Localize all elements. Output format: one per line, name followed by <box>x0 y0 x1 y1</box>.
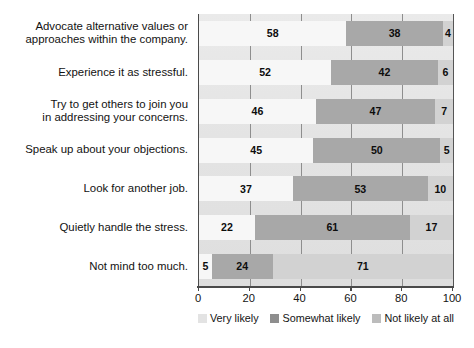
bar-segment: 42 <box>331 60 438 85</box>
bar-value-label: 4 <box>445 28 451 39</box>
bar-value-label: 38 <box>389 28 401 39</box>
bar-value-label: 46 <box>252 106 264 117</box>
bar-segment: 71 <box>273 254 453 279</box>
bar-value-label: 50 <box>371 145 383 156</box>
bar-segment: 58 <box>199 21 346 46</box>
stacked-bar-chart: Advocate alternative values orapproaches… <box>0 0 474 348</box>
bar-segment: 50 <box>313 138 440 163</box>
x-tick-label: 80 <box>395 292 407 304</box>
category-label: Quietly handle the stress. <box>2 221 188 234</box>
category-label: Try to get others to join youin addressi… <box>2 98 188 125</box>
bar-segment: 24 <box>212 254 273 279</box>
bar-value-label: 17 <box>426 222 438 233</box>
bar-value-label: 58 <box>267 28 279 39</box>
bar-segment: 4 <box>443 21 453 46</box>
bar-value-label: 24 <box>236 261 248 272</box>
category-axis-labels: Advocate alternative values orapproaches… <box>0 14 192 286</box>
bar-row: 226117 <box>199 215 453 240</box>
x-tick-label: 60 <box>344 292 356 304</box>
x-tick-label: 0 <box>195 292 201 304</box>
legend-item[interactable]: Somewhat likely <box>270 313 360 324</box>
page-artifact <box>0 332 474 348</box>
bar-value-label: 61 <box>326 222 338 233</box>
x-tick-mark <box>300 286 301 291</box>
legend-item[interactable]: Not likely at all <box>372 313 454 324</box>
x-axis-line <box>197 286 454 288</box>
bar-row: 45505 <box>199 138 453 163</box>
category-label: Advocate alternative values orapproaches… <box>2 20 188 47</box>
category-label: Speak up about your objections. <box>2 143 188 156</box>
bar-segment: 5 <box>199 254 212 279</box>
bar-value-label: 45 <box>250 145 262 156</box>
bar-value-label: 10 <box>434 184 446 195</box>
bar-row: 52471 <box>199 254 453 279</box>
bar-value-label: 37 <box>240 184 252 195</box>
x-tick-mark <box>249 286 250 291</box>
bar-value-label: 47 <box>370 106 382 117</box>
bar-segment: 38 <box>346 21 443 46</box>
bar-segment: 45 <box>199 138 313 163</box>
chart-legend: Very likelySomewhat likelyNot likely at … <box>198 313 454 324</box>
bar-value-label: 5 <box>202 261 208 272</box>
x-tick-mark <box>198 286 199 291</box>
bar-value-label: 6 <box>442 67 448 78</box>
x-tick-label: 100 <box>443 292 462 304</box>
legend-item[interactable]: Very likely <box>198 313 259 324</box>
bar-row: 52426 <box>199 60 453 85</box>
bar-segment: 17 <box>410 215 453 240</box>
category-label: Look for another job. <box>2 182 188 195</box>
bar-value-label: 5 <box>444 145 450 156</box>
legend-swatch-icon <box>372 314 381 323</box>
bar-segment: 22 <box>199 215 255 240</box>
bar-segment: 52 <box>199 60 331 85</box>
bar-segment: 47 <box>316 99 435 124</box>
legend-swatch-icon <box>198 314 207 323</box>
bar-segment: 10 <box>428 176 453 201</box>
bar-value-label: 52 <box>259 67 271 78</box>
bar-value-label: 22 <box>221 222 233 233</box>
x-tick-label: 20 <box>243 292 255 304</box>
bar-value-label: 71 <box>357 261 369 272</box>
x-tick-mark <box>452 286 453 291</box>
category-label: Not mind too much. <box>2 260 188 273</box>
legend-label: Not likely at all <box>384 313 454 324</box>
legend-label: Somewhat likely <box>282 313 360 324</box>
bar-row: 46477 <box>199 99 453 124</box>
bar-segment: 61 <box>255 215 410 240</box>
bar-segment: 6 <box>438 60 453 85</box>
bar-value-label: 53 <box>354 184 366 195</box>
bar-value-label: 7 <box>441 106 447 117</box>
plot-area: 5838452426464774550537531022611752471 <box>198 14 454 286</box>
x-tick-mark <box>350 286 351 291</box>
bar-row: 58384 <box>199 21 453 46</box>
x-tick-label: 40 <box>293 292 305 304</box>
bar-segment: 5 <box>440 138 453 163</box>
x-tick-mark <box>401 286 402 291</box>
bar-segment: 46 <box>199 99 316 124</box>
bar-value-label: 42 <box>379 67 391 78</box>
legend-swatch-icon <box>270 314 279 323</box>
bar-segment: 7 <box>435 99 453 124</box>
bar-segment: 53 <box>293 176 428 201</box>
bar-segment: 37 <box>199 176 293 201</box>
bar-row: 375310 <box>199 176 453 201</box>
legend-label: Very likely <box>210 313 259 324</box>
category-label: Experience it as stressful. <box>2 66 188 79</box>
